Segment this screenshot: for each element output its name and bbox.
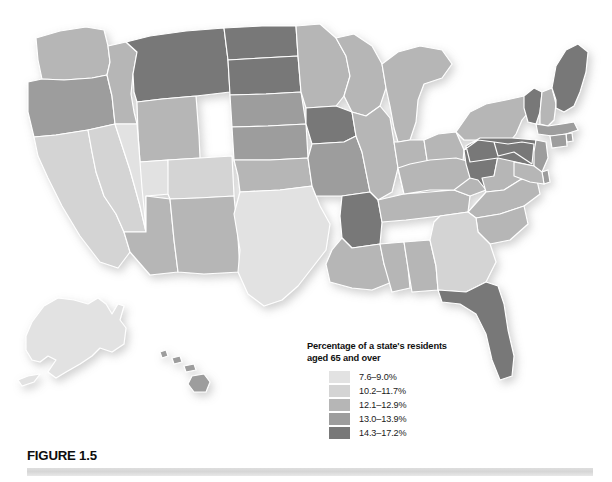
state-MT[interactable]	[126, 28, 230, 102]
legend-label: 14.3–17.2%	[359, 428, 407, 438]
state-CT[interactable]	[550, 134, 567, 148]
state-IA[interactable]	[306, 106, 356, 144]
state-AR[interactable]	[340, 192, 382, 248]
legend-entry: 10.2–11.7%	[307, 384, 512, 397]
legend-entry-list: 7.6–9.0%10.2–11.7%12.1–12.9%13.0–13.9%14…	[307, 370, 512, 439]
state-NY[interactable]	[456, 96, 532, 144]
state-SD[interactable]	[228, 56, 301, 95]
state-ME[interactable]	[552, 44, 588, 112]
state-HI-bigisland[interactable]	[188, 374, 210, 392]
legend-label: 10.2–11.7%	[359, 386, 406, 396]
legend-entry: 7.6–9.0%	[307, 370, 512, 383]
state-HI-oahu[interactable]	[172, 356, 182, 364]
state-NE[interactable]	[230, 92, 306, 127]
legend-entry: 14.3–17.2%	[307, 426, 512, 439]
legend-label: 7.6–9.0%	[359, 372, 397, 382]
legend-swatch	[329, 371, 350, 383]
choropleth-map: Percentage of a state's residents aged 6…	[0, 0, 612, 440]
state-AK-aleutians[interactable]	[18, 374, 40, 386]
legend-title: Percentage of a state's residents aged 6…	[307, 340, 512, 364]
legend-swatch	[329, 399, 350, 411]
map-legend: Percentage of a state's residents aged 6…	[307, 340, 512, 440]
legend-entry: 13.0–13.9%	[307, 412, 512, 425]
state-TX[interactable]	[234, 186, 330, 306]
legend-label: 13.0–13.9%	[359, 414, 407, 424]
legend-swatch	[329, 427, 350, 439]
legend-label: 12.1–12.9%	[359, 400, 407, 410]
state-HI-maui[interactable]	[184, 364, 196, 372]
state-KS[interactable]	[232, 124, 308, 160]
state-CO[interactable]	[168, 156, 234, 199]
figure-caption-block: FIGURE 1.5	[0, 444, 612, 482]
state-HI-kauai[interactable]	[160, 350, 168, 358]
state-AK[interactable]	[26, 298, 126, 378]
state-WA[interactable]	[36, 27, 110, 80]
state-NM[interactable]	[170, 196, 240, 274]
figure-divider-rule	[27, 468, 593, 476]
legend-swatch	[329, 385, 350, 397]
state-WY[interactable]	[137, 96, 200, 162]
state-ND[interactable]	[224, 26, 298, 60]
figure-number-label: FIGURE 1.5	[27, 448, 97, 463]
legend-swatch	[329, 413, 350, 425]
figure-container: Percentage of a state's residents aged 6…	[0, 0, 612, 482]
legend-entry: 12.1–12.9%	[307, 398, 512, 411]
us-map-svg	[0, 0, 612, 440]
state-VT[interactable]	[524, 88, 542, 124]
state-MI[interactable]	[382, 46, 452, 142]
